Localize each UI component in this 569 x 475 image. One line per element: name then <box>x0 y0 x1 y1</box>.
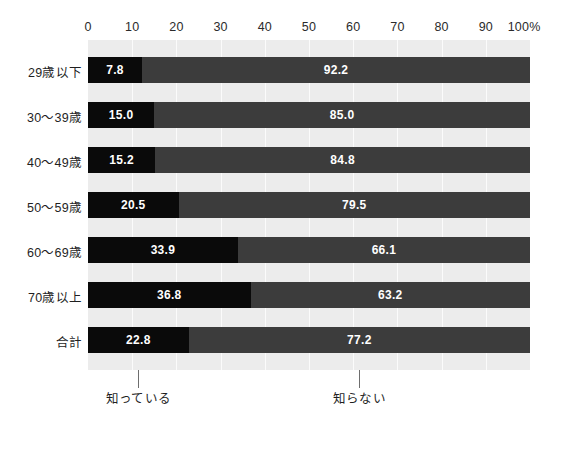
bar-row: 15.284.8 <box>88 147 530 173</box>
bar-segment-know: 15.0 <box>88 102 154 128</box>
bar-value-label: 20.5 <box>121 198 146 212</box>
bar-segment-unknow: 63.2 <box>251 282 530 308</box>
x-axis-tick-0: 0 <box>84 20 91 34</box>
bar-value-label: 7.8 <box>106 63 124 77</box>
legend-label-1: 知らない <box>333 388 386 407</box>
x-axis-tick-30: 30 <box>213 20 227 34</box>
bar-value-label: 33.9 <box>151 243 176 257</box>
bar-segment-know: 20.5 <box>88 192 179 218</box>
bar-segment-know: 36.8 <box>88 282 251 308</box>
bar-segment-know: 7.8 <box>88 57 142 83</box>
x-axis-tick-80: 80 <box>434 20 448 34</box>
bar-value-label: 85.0 <box>330 108 355 122</box>
bar-row: 20.579.5 <box>88 192 530 218</box>
category-label-1: 30〜39歳 <box>0 107 82 126</box>
category-label-4: 60〜69歳 <box>0 242 82 261</box>
chart-legend: 知っている知らない <box>88 370 530 420</box>
bar-value-label: 92.2 <box>324 63 349 77</box>
category-label-6: 合計 <box>0 332 82 351</box>
bar-segment-unknow: 77.2 <box>189 327 530 353</box>
bar-value-label: 63.2 <box>378 288 403 302</box>
x-axis-tick-60: 60 <box>346 20 360 34</box>
bar-value-label: 66.1 <box>372 243 397 257</box>
bar-segment-know: 22.8 <box>88 327 189 353</box>
bar-value-label: 79.5 <box>342 198 367 212</box>
legend-leader-line-0 <box>138 370 139 388</box>
category-label-3: 50〜59歳 <box>0 197 82 216</box>
bar-row: 15.085.0 <box>88 102 530 128</box>
plot-area: 7.892.215.085.015.284.820.579.533.966.13… <box>88 40 530 370</box>
x-axis-tick-40: 40 <box>258 20 272 34</box>
legend-leader-line-1 <box>359 370 360 388</box>
bar-value-label: 22.8 <box>126 333 151 347</box>
x-axis-tick-90: 90 <box>479 20 493 34</box>
bar-value-label: 15.2 <box>109 153 134 167</box>
x-axis: 0102030405060708090100% <box>0 20 569 38</box>
category-label-5: 70歳以上 <box>0 287 82 306</box>
bar-segment-unknow: 66.1 <box>238 237 530 263</box>
bar-value-label: 77.2 <box>347 333 372 347</box>
legend-label-0: 知っている <box>106 388 172 407</box>
x-axis-tick-70: 70 <box>390 20 404 34</box>
stacked-bar-chart: 0102030405060708090100% 7.892.215.085.01… <box>0 0 569 475</box>
y-axis-category-labels: 29歳以下30〜39歳40〜49歳50〜59歳60〜69歳70歳以上合計 <box>0 40 82 370</box>
bar-segment-unknow: 85.0 <box>154 102 530 128</box>
bar-row: 22.877.2 <box>88 327 530 353</box>
bar-value-label: 15.0 <box>109 108 134 122</box>
category-label-0: 29歳以下 <box>0 62 82 81</box>
bar-segment-know: 33.9 <box>88 237 238 263</box>
bar-row: 7.892.2 <box>88 57 530 83</box>
x-axis-tick-10: 10 <box>125 20 139 34</box>
category-label-2: 40〜49歳 <box>0 152 82 171</box>
bar-row: 36.863.2 <box>88 282 530 308</box>
bar-segment-unknow: 79.5 <box>179 192 530 218</box>
bar-row: 33.966.1 <box>88 237 530 263</box>
bar-segment-unknow: 84.8 <box>155 147 530 173</box>
x-axis-tick-50: 50 <box>302 20 316 34</box>
bar-value-label: 84.8 <box>330 153 355 167</box>
bar-segment-know: 15.2 <box>88 147 155 173</box>
bar-segment-unknow: 92.2 <box>142 57 530 83</box>
x-axis-tick-100: 100% <box>508 20 541 34</box>
bar-value-label: 36.8 <box>157 288 182 302</box>
x-axis-tick-20: 20 <box>169 20 183 34</box>
